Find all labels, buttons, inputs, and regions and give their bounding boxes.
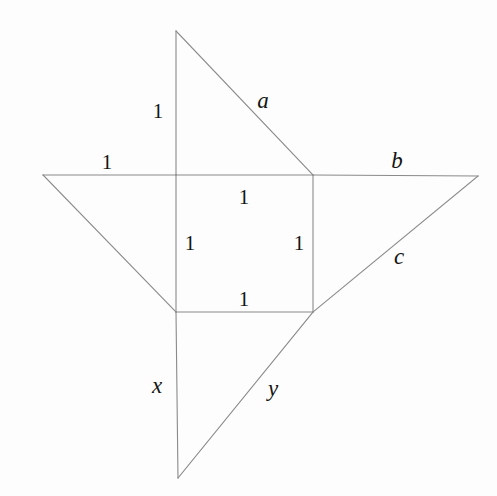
geometry-figure: 1a1b111c1xy bbox=[0, 0, 497, 496]
geometry-canvas bbox=[0, 0, 497, 496]
segment-hypotenuse-a bbox=[176, 31, 313, 175]
segment-lower-vertical-leg-x bbox=[176, 312, 178, 478]
segment-hypotenuse-c bbox=[313, 176, 478, 312]
segment-hypotenuse-y bbox=[178, 312, 313, 478]
segment-hypotenuse-b bbox=[313, 175, 478, 176]
segment-hypotenuse-left-diagonal bbox=[43, 175, 176, 312]
